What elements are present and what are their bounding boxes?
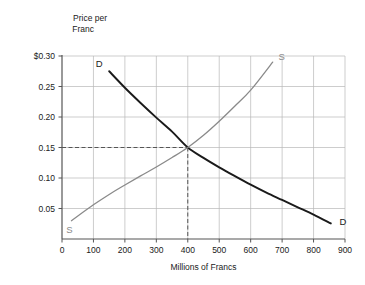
y-tick-label: 0.05: [38, 204, 55, 214]
x-tick-label: 500: [212, 245, 226, 255]
x-tick-label: 800: [306, 245, 320, 255]
supply-curve: [71, 62, 272, 221]
y-tick-label: 0.25: [38, 82, 55, 92]
x-tick-label: 700: [275, 245, 289, 255]
curve-labels: DDSS: [66, 51, 346, 235]
chart-canvas: 0.050.100.150.200.25$0.30010020030040050…: [0, 0, 365, 285]
x-tick-label: 0: [60, 245, 65, 255]
x-tick-label: 400: [181, 245, 195, 255]
x-tick-labels: 0100200300400500600700800900: [60, 245, 353, 255]
y-tick-label: 0.20: [38, 112, 55, 122]
y-tick-label: $0.30: [34, 51, 56, 61]
supply-curve-label-start: S: [66, 224, 72, 235]
x-tick-label: 300: [149, 245, 163, 255]
y-tick-label: 0.10: [38, 173, 55, 183]
y-axis-title-line1: Price per: [73, 13, 107, 23]
demand-curve-label-end: D: [339, 216, 346, 227]
y-tick-label: 0.15: [38, 143, 55, 153]
x-tick-label: 200: [118, 245, 132, 255]
x-tick-label: 100: [86, 245, 100, 255]
x-tick-label: 900: [338, 245, 352, 255]
demand-curve-label-start: D: [96, 58, 103, 69]
supply-demand-chart: 0.050.100.150.200.25$0.30010020030040050…: [0, 0, 365, 285]
x-axis-title: Millions of Francs: [170, 262, 236, 272]
y-axis-title-line2: Franc: [72, 24, 94, 34]
x-tick-label: 600: [244, 245, 258, 255]
supply-curve-label-end: S: [279, 51, 285, 62]
tick-marks: [59, 56, 346, 243]
y-tick-labels: 0.050.100.150.200.25$0.30: [34, 51, 56, 214]
